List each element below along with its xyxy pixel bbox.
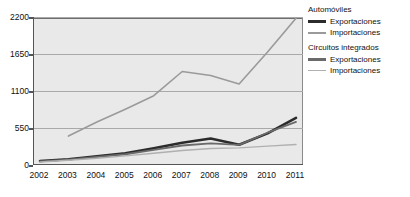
y-tick-label: 550 [1, 124, 29, 133]
y-tick-label: 0 [1, 161, 29, 170]
legend-item[interactable]: Exportaciones [308, 16, 410, 27]
plot-area [33, 17, 303, 165]
legend-line-swatch-icon [308, 32, 326, 34]
legend-item-label: Exportaciones [330, 17, 381, 27]
series-line [68, 18, 296, 136]
y-axis: 0550110016502200 [0, 0, 29, 197]
x-axis: 2002200320042005200620072008200920102011 [33, 170, 303, 186]
line-chart: 0550110016502200 20022003200420052006200… [0, 0, 410, 197]
y-tick-label: 1100 [1, 87, 29, 96]
legend-group-title: Circuitos integrados [308, 42, 410, 53]
legend-item-label: Importaciones [330, 66, 380, 76]
series-line [40, 122, 296, 161]
legend-line-swatch-icon [308, 70, 326, 72]
y-tick-label: 2200 [1, 13, 29, 22]
legend-line-swatch-icon [308, 20, 326, 24]
legend-item[interactable]: Importaciones [308, 65, 410, 76]
x-tick-label: 2011 [278, 170, 312, 180]
legend-item-label: Exportaciones [330, 55, 381, 65]
legend-line-swatch-icon [308, 58, 326, 61]
series-container [34, 17, 304, 165]
legend-item-label: Importaciones [330, 28, 380, 38]
legend-group-title: Automóviles [308, 4, 410, 15]
y-tick-label: 1650 [1, 50, 29, 59]
series-line [40, 118, 296, 161]
y-tick-mark [29, 165, 33, 167]
legend-item[interactable]: Importaciones [308, 27, 410, 38]
legend-item[interactable]: Exportaciones [308, 54, 410, 65]
legend: AutomóvilesExportacionesImportacionesCir… [308, 4, 410, 76]
